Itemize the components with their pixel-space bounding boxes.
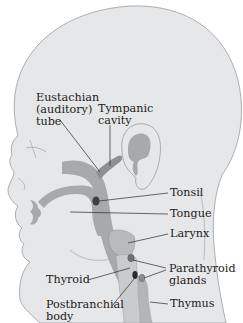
tonsil-shape — [92, 196, 99, 205]
label-tympanic-cavity: Tympanic cavity — [98, 103, 153, 127]
label-postbranchial-body: Postbranchial body — [46, 299, 124, 323]
parathyroid-lower-shape — [139, 274, 145, 282]
anatomy-diagram: Eustachian (auditory) tube Tympanic cavi… — [0, 0, 243, 323]
label-tongue: Tongue — [170, 208, 212, 220]
label-tonsil: Tonsil — [170, 187, 203, 199]
label-larynx: Larynx — [170, 228, 209, 240]
label-thyroid: Thyroid — [46, 274, 90, 286]
label-thymus: Thymus — [170, 298, 215, 310]
parathyroid-upper-shape — [128, 254, 134, 262]
postbranchial-body-shape — [132, 271, 137, 279]
label-parathyroid-glands: Parathyroid glands — [169, 263, 236, 287]
label-eustachian-tube: Eustachian (auditory) tube — [36, 92, 99, 128]
